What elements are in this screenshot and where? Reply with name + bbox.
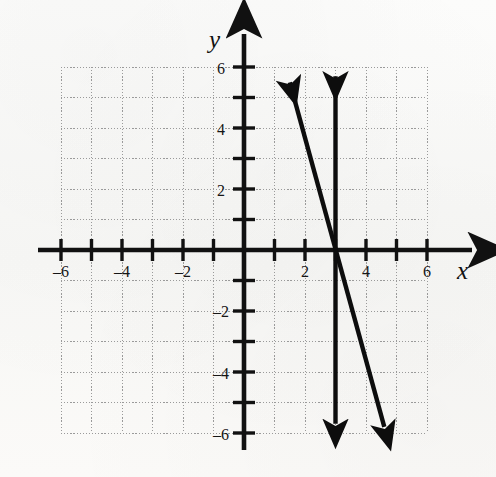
- x-tick-labels: –6 –4 –2 2 4 6: [52, 263, 431, 280]
- coordinate-plane-svg: –6 –4 –2 2 4 6 6 4 2 –2 –4 –6 x y: [0, 0, 496, 477]
- y-tick-label--6: –6: [212, 426, 229, 443]
- y-tick-label-2: 2: [217, 182, 225, 199]
- y-tick-label--2: –2: [212, 303, 229, 320]
- x-tick-label--6: –6: [52, 263, 69, 280]
- x-tick-label-2: 2: [301, 263, 309, 280]
- y-axis-label: y: [206, 26, 221, 53]
- x-tick-label--2: –2: [174, 263, 191, 280]
- x-tick-label-4: 4: [362, 263, 370, 280]
- x-axis-label: x: [456, 257, 468, 284]
- x-tick-label--4: –4: [113, 263, 130, 280]
- y-tick-label--4: –4: [212, 365, 229, 382]
- y-tick-label-6: 6: [217, 60, 225, 77]
- y-tick-label-4: 4: [217, 121, 225, 138]
- graph-figure: –6 –4 –2 2 4 6 6 4 2 –2 –4 –6 x y: [0, 0, 496, 477]
- x-tick-label-6: 6: [423, 263, 431, 280]
